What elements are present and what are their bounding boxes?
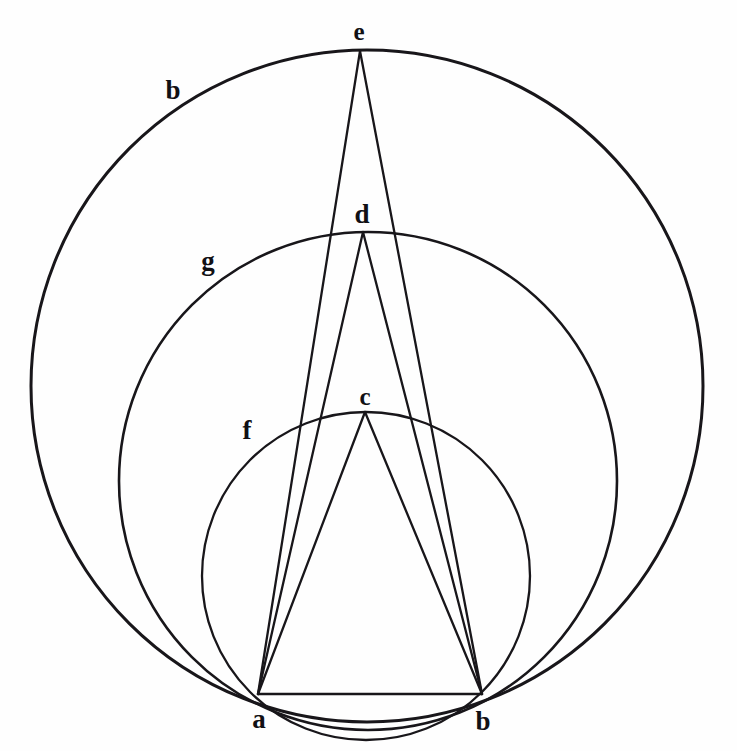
arc-label-g: g (201, 248, 215, 275)
point-label-b: b (475, 708, 490, 735)
point-label-a: a (252, 706, 266, 733)
ray-segment-b-to-c (365, 412, 482, 694)
ray-segment-b-to-d (363, 232, 482, 694)
ray-segment-b-to-e (360, 51, 482, 694)
arc-middle-circle (119, 232, 617, 730)
point-label-e: e (353, 19, 364, 44)
figure-canvas: a b c d e b g f (0, 0, 737, 751)
point-label-d: d (354, 201, 369, 228)
arc-label-b: b (165, 77, 180, 104)
ray-segment-a-to-d (258, 232, 363, 694)
arc-label-f: f (243, 417, 252, 444)
point-label-c: c (359, 384, 370, 409)
diagram-svg (0, 0, 737, 751)
ray-segment-a-to-e (258, 51, 360, 694)
